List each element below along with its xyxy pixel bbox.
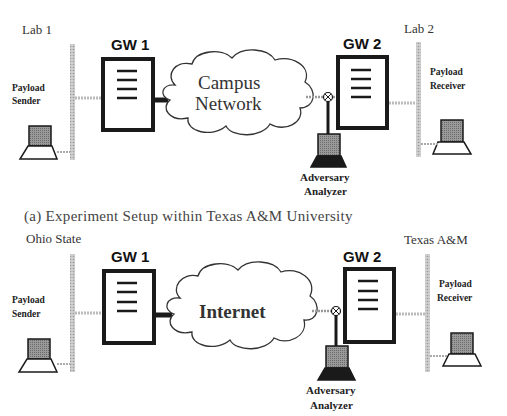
lan-backbone-right [425, 254, 430, 372]
receiver-label-line1: Payload [439, 279, 472, 289]
tap-icon [332, 307, 341, 316]
tap-icon [324, 93, 333, 102]
figure-b: Ohio State Texas A&M Payload Sender GW 1… [12, 231, 481, 411]
laptop-icon [19, 339, 57, 372]
site-label-lab2: Lab 2 [404, 21, 434, 36]
site-label-lab1: Lab 1 [22, 22, 52, 37]
receiver-label-line1: Payload [430, 67, 463, 77]
gateway-gw1-icon [104, 271, 154, 343]
gw2-label: GW 2 [343, 248, 381, 265]
gw1-label: GW 1 [111, 36, 149, 53]
figure-a: Lab 1 Lab 2 Payload Sender GW 1 Campus N… [12, 21, 471, 225]
cloud-label-line1: Campus [198, 72, 260, 93]
receiver-label-line2: Receiver [437, 293, 473, 303]
gateway-gw2-icon [338, 57, 387, 128]
adversary-label-line2: Analyzer [310, 399, 353, 411]
sender-label-line1: Payload [12, 295, 45, 305]
lan-backbone-left [70, 254, 75, 372]
gateway-gw2-icon [345, 269, 394, 342]
laptop-icon [433, 120, 471, 154]
adversary-label-line1: Adversary [300, 171, 350, 183]
site-label-ohio-state: Ohio State [26, 231, 81, 246]
laptop-icon [443, 333, 481, 366]
lan-backbone-left [70, 44, 75, 160]
sender-label-line1: Payload [12, 83, 45, 93]
gw2-label: GW 2 [343, 35, 381, 52]
adversary-label-line2: Analyzer [304, 185, 347, 197]
cloud-label-line2: Network [195, 93, 262, 114]
gateway-gw1-icon [103, 59, 153, 130]
gw1-label: GW 1 [111, 248, 149, 265]
receiver-label-line2: Receiver [430, 81, 466, 91]
cloud-label: Internet [199, 301, 266, 322]
adversary-label-line1: Adversary [306, 384, 356, 396]
sender-label-line2: Sender [12, 96, 41, 106]
caption-a: (a) Experiment Setup within Texas A&M Un… [24, 208, 353, 225]
laptop-icon [20, 126, 57, 159]
adversary-analyzer-icon [311, 134, 346, 167]
site-label-texas-am: Texas A&M [404, 232, 468, 247]
sender-label-line2: Sender [12, 309, 41, 319]
adversary-analyzer-icon [318, 346, 355, 380]
lan-backbone-right [416, 42, 421, 157]
